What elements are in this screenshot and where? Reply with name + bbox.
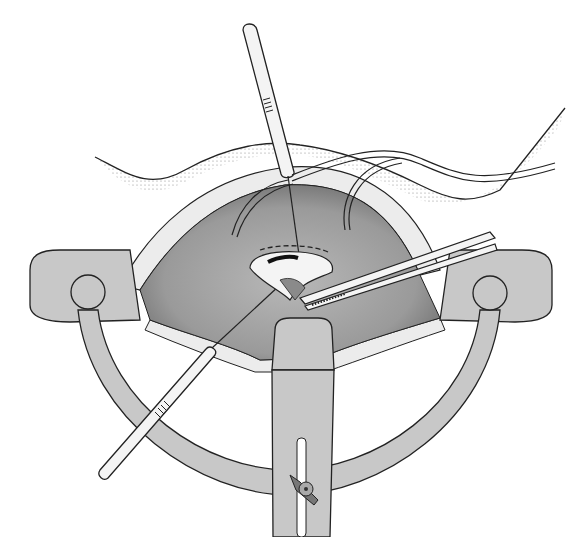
surgical-illustration xyxy=(0,0,582,537)
retractor-center-blade xyxy=(272,318,334,537)
